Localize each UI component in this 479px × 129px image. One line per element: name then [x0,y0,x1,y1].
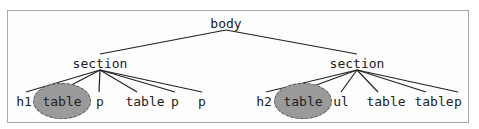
node-body: body [210,17,241,30]
node-section-1: section [73,57,128,70]
node-s2-p: p [454,95,462,108]
node-s2-table-highlighted: table [283,95,322,108]
node-s1-p2: p [171,95,179,108]
edge-s2-p [357,70,458,92]
node-s2-h2: h2 [256,95,272,108]
node-s1-p: p [96,95,104,108]
node-s1-p3: p [198,95,206,108]
node-s2-table: table [366,95,405,108]
edge-body-section-2 [226,30,357,54]
node-s1-table: table [125,95,164,108]
dom-tree-diagram: body section section h1 table p table p … [0,0,479,129]
node-s1-h1: h1 [16,95,32,108]
node-s2-table2: table [414,95,453,108]
edge-body-section-1 [100,30,226,54]
node-section-2: section [330,57,385,70]
edge-s1-table2 [100,70,137,92]
edge-s1-p3 [100,70,202,92]
edge-s1-p [99,70,100,92]
node-s2-ul: ul [333,95,349,108]
edge-s1-p2 [100,70,175,92]
node-s1-table-highlighted: table [42,95,81,108]
